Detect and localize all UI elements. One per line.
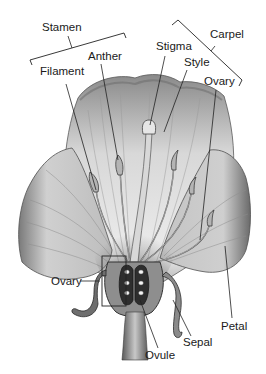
label-ovary-top: Ovary bbox=[204, 75, 235, 87]
label-ovary-left: Ovary bbox=[51, 275, 82, 287]
flower-illustration bbox=[19, 75, 251, 360]
label-sepal: Sepal bbox=[183, 336, 212, 348]
label-ovule: Ovule bbox=[145, 349, 175, 361]
label-petal: Petal bbox=[221, 320, 247, 332]
flower-diagram: Stamen Anther Filament Stigma Style Carp… bbox=[0, 0, 266, 374]
label-anther: Anther bbox=[88, 50, 122, 62]
label-stamen: Stamen bbox=[42, 21, 82, 33]
label-carpel: Carpel bbox=[210, 28, 244, 40]
sepal-right bbox=[162, 272, 182, 338]
label-style: Style bbox=[184, 56, 210, 68]
receptacle bbox=[105, 262, 164, 317]
label-filament: Filament bbox=[40, 65, 85, 77]
stigma-shape bbox=[142, 120, 155, 134]
label-stigma: Stigma bbox=[156, 40, 192, 52]
